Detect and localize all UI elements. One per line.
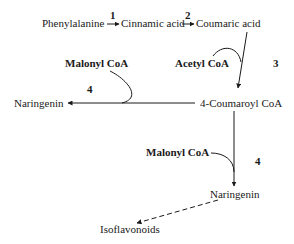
node-isoflavonoids: Isoflavonoids <box>100 224 160 235</box>
arrow-step-3 <box>238 32 247 88</box>
step-label-1: 1 <box>110 10 116 21</box>
node-phenylalanine: Phenylalanine <box>42 18 104 29</box>
arrow-dashed-isoflavonoids <box>137 200 218 223</box>
pathway-arrows <box>0 0 294 244</box>
node-naringenin-bottom: Naringenin <box>210 189 259 200</box>
node-cinnamic-acid: Cinnamic acid <box>121 18 185 29</box>
step-label-3: 3 <box>273 58 279 69</box>
node-malonyl-coa-bottom: Malonyl CoA <box>146 147 209 158</box>
step-label-2: 2 <box>185 10 191 21</box>
node-malonyl-coa-top: Malonyl CoA <box>65 58 128 69</box>
step-label-4-right: 4 <box>255 156 261 167</box>
step-label-4-left: 4 <box>87 84 93 95</box>
node-4-coumaroyl-coa: 4-Coumaroyl CoA <box>200 98 282 109</box>
node-coumaric-acid: Coumaric acid <box>196 18 260 29</box>
malonyl-coa-curve-left <box>110 71 132 103</box>
malonyl-coa-curve-right <box>211 153 234 172</box>
node-naringenin-left: Naringenin <box>14 98 63 109</box>
node-acetyl-coa: Acetyl CoA <box>175 58 229 69</box>
